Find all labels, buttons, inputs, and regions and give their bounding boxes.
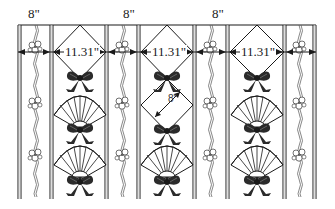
narrow-stripe-1	[28, 25, 42, 197]
narrow-stripe-2	[115, 25, 129, 197]
narrow-width-label-1: 8"	[28, 7, 40, 20]
narrow-stripe-3	[203, 25, 217, 197]
wide-width-label-2: 11.31"	[151, 45, 187, 58]
wide-width-label-3: 11.31"	[240, 45, 276, 58]
diamond-side-label: 8"	[168, 94, 177, 104]
narrow-width-label-2: 8"	[123, 7, 135, 20]
narrow-stripe-4	[292, 25, 306, 197]
narrow-width-label-3: 8"	[212, 7, 224, 20]
wide-width-label-1: 11.31"	[64, 45, 100, 58]
wallpaper-dimension-diagram	[0, 0, 335, 209]
